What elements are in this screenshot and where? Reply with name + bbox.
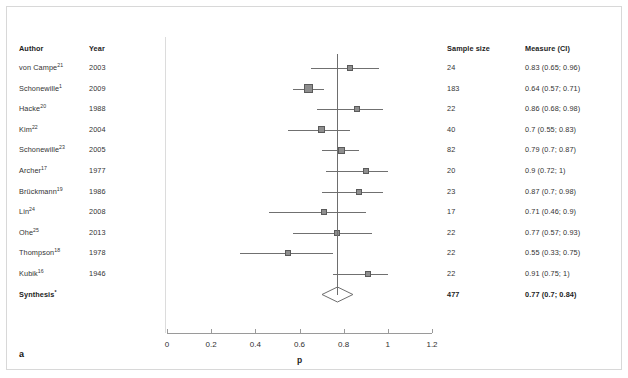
pooled-estimate-diamond bbox=[320, 285, 355, 304]
x-axis-tick-label: 1.2 bbox=[417, 340, 447, 349]
row-author: Brückmann19 bbox=[19, 188, 63, 195]
row-author: Kim22 bbox=[19, 126, 38, 133]
row-measure: 0.91 (0.75; 1) bbox=[525, 270, 570, 277]
row-measure: 0.83 (0.65; 0.96) bbox=[525, 64, 580, 71]
column-header-year: Year bbox=[89, 45, 105, 52]
row-measure: 0.64 (0.57; 0.71) bbox=[525, 85, 580, 92]
confidence-interval-line bbox=[326, 171, 388, 172]
row-sample-size: 22 bbox=[447, 249, 455, 256]
x-axis-title: p bbox=[280, 355, 320, 365]
effect-estimate-marker bbox=[321, 209, 327, 215]
column-header-sample-size: Sample size bbox=[447, 45, 490, 52]
row-sample-size: 183 bbox=[447, 85, 459, 92]
confidence-interval-line bbox=[322, 150, 360, 151]
x-axis-tick-label: 0.4 bbox=[240, 340, 270, 349]
row-sample-size: 22 bbox=[447, 105, 455, 112]
column-header-measure: Measure (CI) bbox=[525, 45, 570, 52]
row-year: 2008 bbox=[89, 208, 106, 215]
effect-estimate-marker bbox=[363, 168, 369, 174]
figure-canvas: Author Year Sample size Measure (CI) von… bbox=[7, 7, 623, 371]
effect-estimate-marker bbox=[318, 126, 325, 133]
row-measure: 0.87 (0.7; 0.98) bbox=[525, 188, 576, 195]
row-year: 1986 bbox=[89, 188, 106, 195]
row-sample-size-synthesis: 477 bbox=[447, 291, 459, 298]
row-measure: 0.77 (0.57; 0.93) bbox=[525, 229, 580, 236]
row-measure: 0.7 (0.55; 0.83) bbox=[525, 126, 576, 133]
confidence-interval-line bbox=[333, 274, 388, 275]
row-author: Schonewille1 bbox=[19, 85, 62, 92]
row-year: 2004 bbox=[89, 126, 106, 133]
table-plot-divider bbox=[165, 37, 166, 333]
row-author: Thompson18 bbox=[19, 249, 60, 256]
row-measure: 0.71 (0.46; 0.9) bbox=[525, 208, 576, 215]
x-axis-tick-label: 1 bbox=[373, 340, 403, 349]
row-sample-size: 17 bbox=[447, 208, 455, 215]
confidence-interval-line bbox=[311, 68, 379, 69]
row-author: Ohe25 bbox=[19, 229, 39, 236]
reference-line bbox=[337, 54, 338, 295]
confidence-interval-line bbox=[317, 109, 383, 110]
row-author: von Campe21 bbox=[19, 64, 63, 71]
confidence-interval-line bbox=[293, 89, 324, 90]
row-sample-size: 20 bbox=[447, 167, 455, 174]
row-author: Hacke20 bbox=[19, 105, 46, 112]
effect-estimate-marker bbox=[334, 230, 340, 236]
x-axis-tick-label: 0 bbox=[152, 340, 182, 349]
row-year: 1946 bbox=[89, 270, 106, 277]
confidence-interval-line bbox=[240, 253, 333, 254]
row-measure: 0.55 (0.33; 0.75) bbox=[525, 249, 580, 256]
effect-estimate-marker bbox=[365, 271, 371, 277]
x-axis-tick bbox=[300, 329, 301, 333]
row-measure-synthesis: 0.77 (0.7; 0.84) bbox=[525, 291, 577, 298]
row-author: Archer17 bbox=[19, 167, 47, 174]
row-year: 1978 bbox=[89, 249, 106, 256]
effect-estimate-marker bbox=[354, 106, 360, 112]
effect-estimate-marker bbox=[304, 84, 313, 93]
effect-estimate-marker bbox=[285, 250, 291, 256]
x-axis-tick bbox=[255, 329, 256, 333]
x-axis-tick bbox=[167, 329, 168, 333]
row-year: 2013 bbox=[89, 229, 106, 236]
row-author: Lin24 bbox=[19, 208, 35, 215]
row-sample-size: 23 bbox=[447, 188, 455, 195]
row-sample-size: 24 bbox=[447, 64, 455, 71]
row-measure: 0.79 (0.7; 0.87) bbox=[525, 146, 576, 153]
row-measure: 0.86 (0.68; 0.98) bbox=[525, 105, 580, 112]
x-axis-tick bbox=[344, 329, 345, 333]
x-axis-tick-label: 0.8 bbox=[329, 340, 359, 349]
panel-label: a bbox=[19, 349, 24, 359]
confidence-interval-line bbox=[322, 192, 384, 193]
row-measure: 0.9 (0.72; 1) bbox=[525, 167, 566, 174]
row-author: Kubik16 bbox=[19, 270, 44, 277]
x-axis-tick-label: 0.6 bbox=[285, 340, 315, 349]
row-sample-size: 82 bbox=[447, 146, 455, 153]
row-year: 2003 bbox=[89, 64, 106, 71]
x-axis-tick bbox=[432, 329, 433, 333]
effect-estimate-marker bbox=[338, 147, 346, 155]
column-header-author: Author bbox=[19, 45, 44, 52]
x-axis-tick bbox=[388, 329, 389, 333]
row-sample-size: 22 bbox=[447, 229, 455, 236]
row-year: 1988 bbox=[89, 105, 106, 112]
row-author: Schonewille23 bbox=[19, 146, 65, 153]
row-year: 1977 bbox=[89, 167, 106, 174]
confidence-interval-line bbox=[293, 233, 373, 234]
row-author-synthesis: Synthesis* bbox=[19, 291, 57, 298]
x-axis-tick-label: 0.2 bbox=[196, 340, 226, 349]
row-sample-size: 40 bbox=[447, 126, 455, 133]
effect-estimate-marker bbox=[347, 65, 353, 71]
figure-panel: Author Year Sample size Measure (CI) von… bbox=[6, 6, 622, 370]
confidence-interval-line bbox=[269, 212, 366, 213]
x-axis-tick bbox=[211, 329, 212, 333]
effect-estimate-marker bbox=[356, 189, 362, 195]
row-sample-size: 22 bbox=[447, 270, 455, 277]
confidence-interval-line bbox=[288, 130, 350, 131]
row-year: 2005 bbox=[89, 146, 106, 153]
row-year: 2009 bbox=[89, 85, 106, 92]
x-axis-line bbox=[167, 333, 432, 334]
